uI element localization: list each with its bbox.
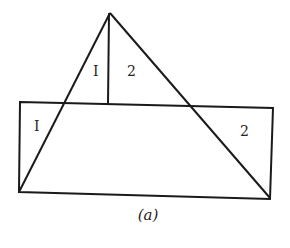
geometry-figure: I 2 I 2 (a) — [0, 0, 290, 248]
label-rect-right: 2 — [240, 123, 249, 139]
figure-canvas: I 2 I 2 (a) — [0, 0, 290, 248]
figure-caption: (a) — [138, 206, 159, 224]
altitude-line — [108, 13, 109, 104]
label-triangle-left: I — [93, 63, 99, 79]
label-rect-left: I — [34, 118, 40, 134]
label-triangle-right: 2 — [127, 63, 136, 79]
